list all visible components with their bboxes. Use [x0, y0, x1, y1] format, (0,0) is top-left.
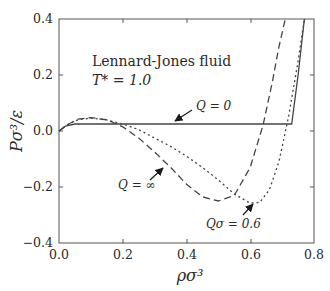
x-tick-label: 0.2	[113, 247, 133, 262]
label-q-zero: Q = 0	[175, 99, 232, 121]
y-ticks	[59, 75, 314, 187]
x-tick-label: 0.6	[241, 247, 261, 262]
chart: 0.0 0.2 0.4 0.6 0.8 0.4 0.2 0.0 −0.2 −0.…	[0, 0, 330, 291]
label-q-infinity: Q = ∞	[118, 168, 163, 192]
x-tick-label: 0.8	[304, 247, 324, 262]
y-tick-label: −0.2	[23, 179, 53, 194]
y-tick-label: −0.4	[23, 235, 53, 250]
series-q-sigma-0.6-line	[59, 19, 304, 203]
temperature-label: T* = 1.0	[92, 72, 151, 88]
y-tick-label: 0.0	[33, 123, 53, 138]
series-label: Q = 0	[196, 99, 232, 113]
x-axis-label: ρσ³	[176, 266, 204, 285]
arrow-icon	[175, 110, 192, 121]
series-q-infinity-line	[59, 19, 285, 201]
y-tick-labels: 0.4 0.2 0.0 −0.2 −0.4	[23, 11, 53, 250]
x-tick-labels: 0.0 0.2 0.4 0.6 0.8	[49, 247, 324, 262]
arrow-icon	[243, 204, 253, 215]
series-label: Qσ = 0.6	[206, 217, 261, 231]
series-label: Q = ∞	[118, 178, 156, 192]
y-tick-label: 0.4	[33, 11, 53, 26]
fluid-label: Lennard-Jones fluid	[92, 53, 231, 69]
x-tick-label: 0.4	[177, 247, 197, 262]
y-tick-label: 0.2	[33, 67, 53, 82]
label-q-sigma: Qσ = 0.6	[206, 204, 261, 231]
y-axis-label: Pσ³/ε	[7, 110, 26, 153]
